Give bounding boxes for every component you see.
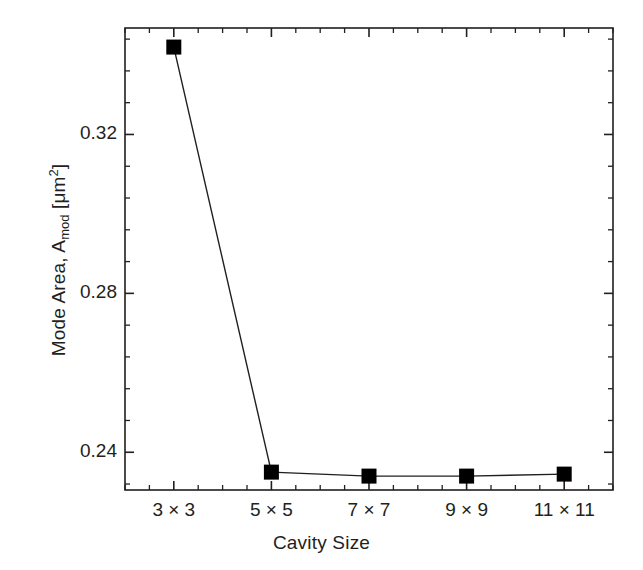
plot-frame bbox=[125, 28, 613, 490]
y-axis-minor-ticks bbox=[125, 39, 613, 484]
x-axis-major-ticks bbox=[174, 28, 564, 490]
data-series-markers bbox=[166, 40, 571, 484]
data-point-marker bbox=[557, 467, 572, 482]
y-axis-title-suffix: ] bbox=[48, 164, 69, 169]
y-axis-title-prefix: Mode Area, A bbox=[48, 240, 69, 356]
y-axis-title-subscript: mod bbox=[57, 215, 72, 240]
y-axis-title-container: Mode Area, Amod [μm2] bbox=[46, 0, 86, 520]
x-axis-minor-ticks bbox=[125, 28, 613, 490]
data-point-marker bbox=[459, 469, 474, 484]
data-point-marker bbox=[264, 465, 279, 480]
x-axis-title: Cavity Size bbox=[0, 532, 643, 554]
y-axis-title-middle: [μm bbox=[48, 176, 69, 214]
data-point-marker bbox=[166, 40, 181, 55]
x-axis-tick-label: 11 × 11 bbox=[504, 499, 624, 521]
y-axis-major-ticks bbox=[125, 134, 613, 452]
data-series-line bbox=[174, 47, 564, 476]
y-axis-title-superscript: 2 bbox=[46, 169, 61, 176]
chart-figure: 0.320.280.24 3 × 35 × 57 × 79 × 911 × 11… bbox=[0, 0, 643, 570]
data-point-marker bbox=[362, 469, 377, 484]
y-axis-title: Mode Area, Amod [μm2] bbox=[46, 0, 72, 520]
